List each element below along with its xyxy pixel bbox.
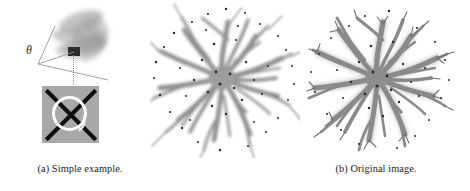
dendrite-image-enhanced — [300, 0, 460, 158]
caption-b: (b) Original image. — [306, 163, 446, 176]
panel-c-enhanced-image: (c) Optically enhanced image with TV-flo… — [300, 0, 470, 160]
panel-b-original-image: (b) Original image. — [150, 0, 300, 160]
theta-label: θ — [26, 43, 32, 58]
image-plane-square — [42, 86, 99, 143]
panel-a-schematic: θ (a) Simple example. — [0, 0, 150, 160]
caption-a: (a) Simple example. — [6, 163, 154, 176]
figure-container: θ (a) Simple example. — [0, 0, 470, 191]
curved-arrow-icon — [42, 86, 99, 143]
projection-dotted-line — [73, 55, 74, 87]
dendrite-image-original — [150, 0, 300, 158]
